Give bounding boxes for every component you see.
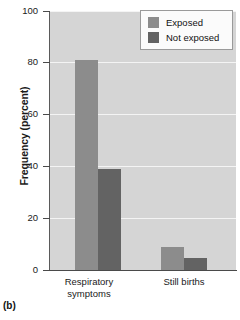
y-tick-label-100: 100 [0, 6, 38, 16]
y-tick-label-60: 60 [0, 109, 38, 119]
bar-still-births-not-exposed [184, 258, 207, 270]
y-axis-title: Frequency (percent) [18, 56, 30, 216]
y-tick-mark-40 [43, 166, 50, 167]
legend-swatch-icon-not-exposed [148, 32, 159, 43]
y-tick-mark-20 [43, 218, 50, 219]
y-axis-line [49, 11, 50, 271]
panel-caption: (b) [3, 300, 16, 311]
y-tick-label-0: 0 [0, 265, 38, 275]
y-tick-mark-100 [43, 11, 50, 12]
y-tick-mark-80 [43, 62, 50, 63]
bar-respiratory-symptoms-not-exposed [98, 169, 121, 270]
y-tick-mark-60 [43, 114, 50, 115]
legend-label-not-exposed: Not exposed [166, 33, 219, 43]
x-axis-line [43, 270, 237, 271]
bar-chart-figure: Frequency (percent) 100 80 60 40 20 0 Re… [0, 0, 240, 320]
y-tick-label-80: 80 [0, 57, 38, 67]
legend-swatch-icon-exposed [148, 17, 159, 28]
x-tick-label-respiratory-symptoms: Respiratory symptoms [46, 276, 132, 299]
x-tick-label-still-births: Still births [143, 276, 225, 288]
y-tick-label-20: 20 [0, 213, 38, 223]
legend: Exposed Not exposed [140, 10, 233, 50]
bar-still-births-exposed [161, 247, 184, 270]
legend-item-not-exposed: Not exposed [148, 30, 228, 45]
bar-respiratory-symptoms-exposed [75, 60, 98, 270]
y-tick-label-40: 40 [0, 161, 38, 171]
legend-item-exposed: Exposed [148, 15, 228, 30]
legend-label-exposed: Exposed [166, 18, 203, 28]
